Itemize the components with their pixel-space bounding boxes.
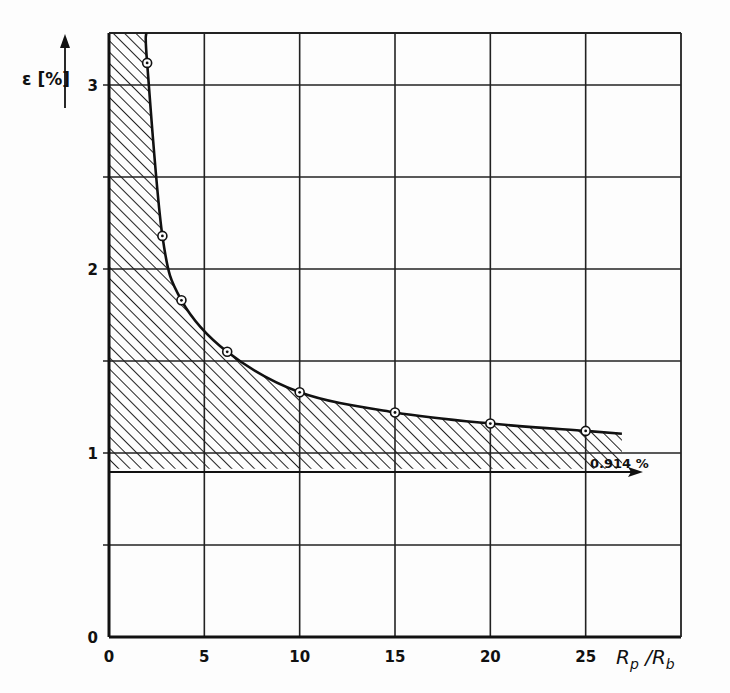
y-tick-label: 2 <box>88 261 98 279</box>
y-tick-label: 3 <box>88 77 98 95</box>
chart: 0.914 % 0510152025 0123 ε [%] Rp /Rb <box>0 0 730 693</box>
x-tick-label: 20 <box>480 648 501 666</box>
x-tick-label: 15 <box>385 648 406 666</box>
y-tick-label: 0 <box>88 629 98 647</box>
x-tick-label: 10 <box>289 648 310 666</box>
x-tick-label: 0 <box>104 648 114 666</box>
y-axis-label-group: ε [%] <box>22 34 70 108</box>
y-tick-labels: 0123 <box>88 77 98 647</box>
y-tick-label: 1 <box>88 445 98 463</box>
x-tick-label: 5 <box>199 648 209 666</box>
x-tick-label: 25 <box>575 648 596 666</box>
hatched-region <box>109 33 622 469</box>
asymptote-label: 0.914 % <box>590 456 649 471</box>
x-axis-label: Rp /Rb <box>616 645 675 672</box>
y-axis-label: ε [%] <box>22 69 70 89</box>
arrow-up-icon <box>60 34 70 48</box>
x-tick-labels: 0510152025 <box>104 648 596 666</box>
